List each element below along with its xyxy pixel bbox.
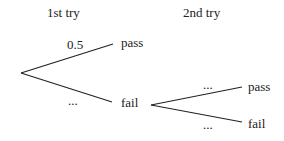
tree-branches bbox=[0, 0, 284, 141]
header-2nd-try: 2nd try bbox=[183, 6, 220, 19]
outcome-2nd-fail: fail bbox=[248, 117, 265, 130]
branch-1st-fail bbox=[21, 73, 112, 102]
prob-2nd-pass: ... bbox=[203, 78, 213, 91]
prob-1st-pass: 0.5 bbox=[67, 38, 83, 51]
header-1st-try: 1st try bbox=[47, 6, 80, 19]
branch-2nd-pass bbox=[151, 87, 242, 105]
outcome-1st-pass: pass bbox=[121, 36, 143, 49]
prob-2nd-fail: ... bbox=[203, 118, 213, 131]
branch-2nd-fail bbox=[151, 105, 242, 122]
prob-1st-fail: ... bbox=[68, 94, 78, 107]
outcome-2nd-pass: pass bbox=[248, 80, 270, 93]
outcome-1st-fail: fail bbox=[121, 96, 138, 109]
